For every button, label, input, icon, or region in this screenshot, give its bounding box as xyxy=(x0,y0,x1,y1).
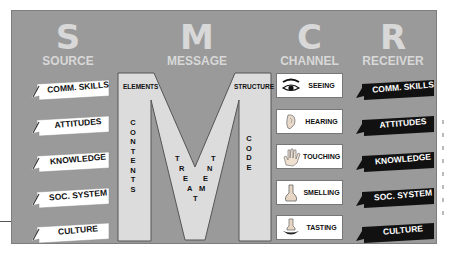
page-edge-marks xyxy=(440,120,446,240)
elements-label: ELEMENTS xyxy=(123,83,158,90)
treatment-letter: M xyxy=(199,184,205,193)
channel-letter: C xyxy=(272,22,347,52)
channel-item-hearing: HEARING xyxy=(276,109,343,134)
source-item-soc-system: SOC. SYSTEM xyxy=(27,186,111,208)
treatment-letter: R xyxy=(179,164,184,173)
treatment-letter: T xyxy=(193,194,198,203)
eye-icon xyxy=(281,76,301,96)
message-header: M MESSAGE xyxy=(152,22,242,68)
source-item-culture: CULTURE xyxy=(27,221,111,243)
source-item-knowledge: KNOWLEDGE xyxy=(27,150,111,172)
receiver-label: RECEIVER xyxy=(353,54,433,68)
receiver-item-knowledge: KNOWLEDGE xyxy=(352,150,436,172)
source-letter: S xyxy=(28,22,108,52)
treatment-letter: N xyxy=(207,164,212,173)
contents-label: CONTENTS xyxy=(129,118,137,194)
receiver-letter: R xyxy=(353,22,433,52)
source-item-comm-skills: COMM. SKILLS xyxy=(27,78,111,100)
channel-item-tasting: TASTING xyxy=(276,215,343,240)
ear-icon xyxy=(281,112,301,132)
code-label: CODE xyxy=(245,134,253,172)
channel-item-seeing: SEEING xyxy=(276,73,343,98)
treatment-letter: T xyxy=(175,154,180,163)
message-letter: M xyxy=(152,22,242,52)
tongue-icon xyxy=(281,218,301,238)
treatment-letter: E xyxy=(183,174,188,183)
receiver-item-culture: CULTURE xyxy=(352,221,436,243)
receiver-item-comm-skills: COMM. SKILLS xyxy=(352,78,436,100)
hand-icon xyxy=(281,147,301,167)
receiver-header: R RECEIVER xyxy=(353,22,433,68)
message-m-shape: ELEMENTS STRUCTURE CONTENTS CODE T R E A… xyxy=(117,72,272,242)
nose-icon xyxy=(281,183,301,203)
source-item-attitudes: ATTITUDES xyxy=(27,114,111,136)
source-header: S SOURCE xyxy=(28,22,108,68)
channel-header: C CHANNEL xyxy=(272,22,347,68)
source-label: SOURCE xyxy=(28,54,108,68)
channel-label: CHANNEL xyxy=(272,54,347,68)
treatment-letter: A xyxy=(187,184,192,193)
treatment-letter: E xyxy=(203,174,208,183)
receiver-item-attitudes: ATTITUDES xyxy=(352,114,436,136)
channel-item-touching: TOUCHING xyxy=(276,144,343,169)
message-label: MESSAGE xyxy=(152,54,242,68)
receiver-item-soc-system: SOC. SYSTEM xyxy=(352,186,436,208)
channel-item-smelling: SMELLING xyxy=(276,180,343,205)
structure-label: STRUCTURE xyxy=(234,83,274,90)
treatment-letter: T xyxy=(211,154,216,163)
